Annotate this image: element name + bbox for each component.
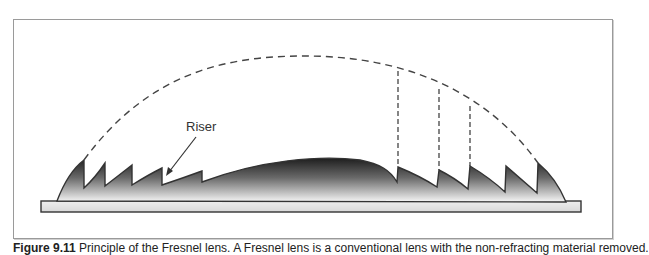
caption-number: Figure 9.11	[13, 241, 76, 255]
riser-arrow-shaft	[169, 137, 196, 172]
figure-caption: Figure 9.11 Principle of the Fresnel len…	[13, 241, 649, 255]
lens-base-plate	[41, 201, 581, 212]
riser-label: Riser	[186, 119, 217, 134]
fresnel-lens-body	[57, 158, 566, 202]
caption-text: Principle of the Fresnel lens. A Fresnel…	[79, 241, 649, 255]
